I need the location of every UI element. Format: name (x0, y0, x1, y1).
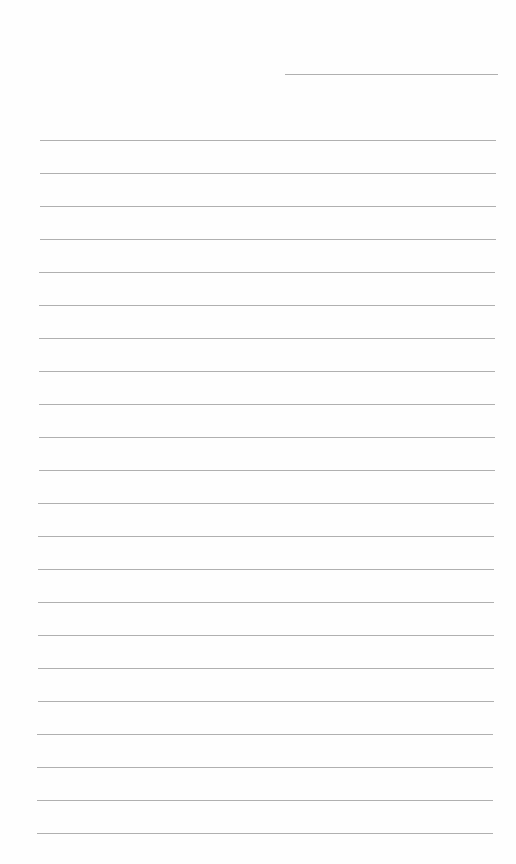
ruled-line (40, 206, 496, 207)
ruled-line (37, 734, 493, 735)
ruled-line (39, 305, 495, 306)
ruled-line (39, 272, 495, 273)
ruled-line (39, 470, 495, 471)
ruled-line (38, 569, 494, 570)
ruled-line (40, 173, 496, 174)
ruled-line (38, 701, 494, 702)
ruled-line (40, 239, 496, 240)
ruled-line (39, 338, 495, 339)
ruled-line (38, 635, 494, 636)
ruled-line (37, 767, 493, 768)
ruled-line (38, 536, 494, 537)
ruled-line (38, 668, 494, 669)
ruled-line (39, 437, 495, 438)
ruled-line (38, 602, 494, 603)
ruled-line (37, 833, 493, 834)
ruled-line (39, 404, 495, 405)
ruled-line (40, 140, 496, 141)
lined-page (0, 0, 516, 864)
ruled-line (39, 371, 495, 372)
ruled-lines-container (0, 0, 516, 864)
ruled-line (38, 503, 494, 504)
ruled-line (37, 800, 493, 801)
